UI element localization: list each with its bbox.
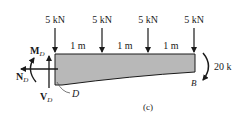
end-moment-arrow	[203, 53, 209, 80]
free-body-diagram: 5 kN 5 kN 5 kN 5 kN 1 m 1 m 1 m 20 k B M…	[0, 0, 235, 121]
span-label-3: 1 m	[163, 40, 179, 51]
load-label-4: 5 kN	[184, 14, 204, 25]
span-label-1: 1 m	[70, 40, 86, 51]
moment-label: MD	[30, 45, 45, 58]
span-label-2: 1 m	[117, 40, 133, 51]
load-label-1: 5 kN	[45, 14, 65, 25]
beam	[55, 54, 195, 85]
moment-arrow	[30, 58, 36, 82]
normal-label: ND	[16, 71, 28, 84]
point-d-label: D	[71, 88, 80, 99]
load-label-3: 5 kN	[138, 14, 158, 25]
figure-caption: (c)	[143, 102, 153, 112]
point-b-label: B	[191, 78, 197, 88]
end-moment-label: 20 k	[214, 61, 232, 72]
shear-label: VD	[40, 91, 52, 104]
load-label-2: 5 kN	[92, 14, 112, 25]
